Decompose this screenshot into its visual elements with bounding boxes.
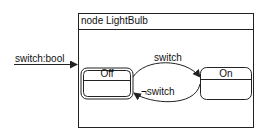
input-label: switch:bool	[15, 54, 64, 64]
state-on-label: On	[201, 69, 251, 79]
state-off-label: Off	[84, 69, 130, 79]
transition-on-to-off-label: ¬switch	[141, 87, 175, 97]
transition-off-to-on-label: switch	[154, 53, 182, 63]
node-title: node LightBulb	[81, 16, 148, 26]
